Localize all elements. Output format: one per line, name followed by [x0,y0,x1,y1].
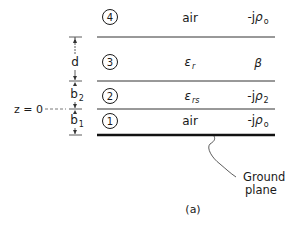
layer-2-medium: εrs [185,90,200,105]
layer-3-number: 3 [102,54,118,70]
layer-1-constant: -jρo [247,114,268,129]
layer-3-medium: εr [185,56,196,71]
figure-caption: (a) [185,204,200,215]
layer-4-number: 4 [102,9,118,25]
ground-plane-label-line2: plane [245,185,277,197]
layer-4-constant: -jρo [247,11,268,26]
ground-plane-leader [209,136,236,177]
origin-label: z = 0 [14,104,43,115]
dimension-d-label: d [71,55,79,69]
layer-1-medium: air [182,115,198,127]
dimension-b2-label: b2 [70,87,84,103]
layer-1-number: 1 [102,113,118,129]
layer-2-number: 2 [102,88,118,104]
layer-4-medium: air [182,12,198,24]
dimension-b1-label: b1 [70,113,84,129]
layer-3-constant: β [254,57,262,69]
layer-2-constant: -jρ2 [247,90,268,105]
ground-plane-label-line1: Ground [243,172,285,184]
